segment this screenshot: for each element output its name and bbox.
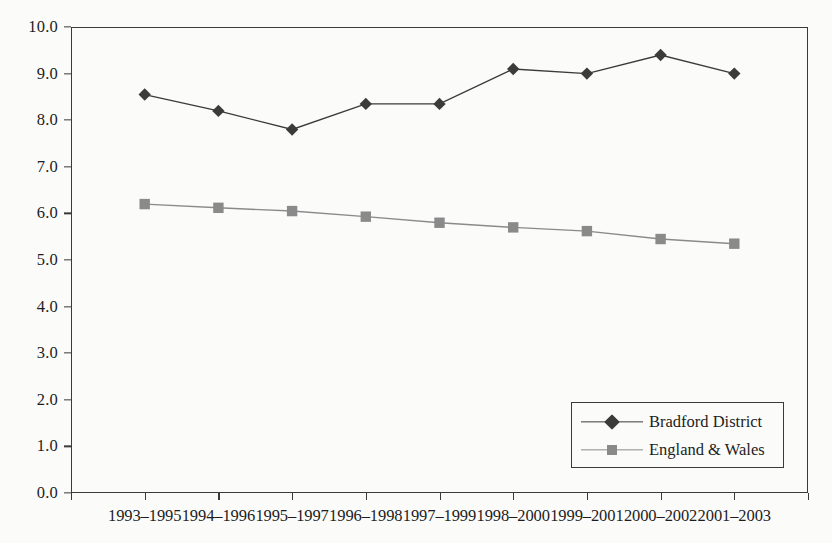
x-axis-tick-mark: [292, 493, 293, 500]
series-line-bradford-district: [145, 55, 735, 130]
data-point-marker: [728, 67, 740, 79]
x-axis-tick-mark: [366, 493, 367, 500]
y-axis-tick-mark: [64, 306, 71, 307]
x-axis-tick-label: 1994–1996: [182, 506, 255, 526]
data-point-marker: [140, 199, 150, 209]
y-axis-tick-label: 1.0: [37, 436, 58, 456]
data-point-marker: [287, 206, 297, 216]
data-point-marker: [213, 203, 223, 213]
y-axis-tick-mark: [64, 259, 71, 260]
y-axis-tick-mark: [64, 446, 71, 447]
data-point-marker: [139, 88, 151, 100]
x-axis-tick-mark: [808, 493, 809, 500]
data-point-marker: [286, 123, 298, 135]
y-axis-tick-mark: [64, 353, 71, 354]
data-point-marker: [654, 49, 666, 61]
data-point-marker: [360, 98, 372, 110]
x-axis-tick-mark: [587, 493, 588, 500]
x-axis-tick-label: 1996–1998: [329, 506, 402, 526]
legend-item-bradford-district: Bradford District: [572, 408, 783, 436]
data-point-marker: [507, 63, 519, 75]
x-axis-tick-mark: [145, 493, 146, 500]
data-point-marker: [729, 238, 739, 248]
y-axis-tick-mark: [64, 213, 71, 214]
x-axis-tick-mark: [71, 493, 72, 500]
legend-label-bradford-district: Bradford District: [643, 412, 762, 432]
y-axis-tick-mark: [64, 166, 71, 167]
x-axis-tick-mark: [440, 493, 441, 500]
x-axis-tick-label: 1995–1997: [255, 506, 328, 526]
legend-item-england-wales: England & Wales: [572, 436, 783, 464]
y-axis-tick-label: 9.0: [37, 64, 58, 84]
x-axis-tick-label: 1999–2001: [550, 506, 623, 526]
y-axis-tick-label: 6.0: [37, 203, 58, 223]
x-axis-tick-mark: [218, 493, 219, 500]
y-axis-tick-label: 0.0: [37, 483, 58, 503]
x-axis-tick-mark: [661, 493, 662, 500]
data-point-marker: [212, 105, 224, 117]
y-axis: 0.01.02.03.04.05.06.07.08.09.010.0: [0, 27, 58, 493]
y-axis-tick-label: 4.0: [37, 297, 58, 317]
x-axis-tick-label: 1998–2000: [477, 506, 550, 526]
y-axis-tick-mark: [64, 120, 71, 121]
y-axis-tick-label: 7.0: [37, 157, 58, 177]
y-axis-tick-mark: [64, 492, 71, 493]
x-axis: 1993–19951994–19961995–19971996–19981997…: [71, 506, 808, 536]
legend-swatch-square-icon: [581, 442, 643, 458]
x-axis-tick-label: 2000–2002: [624, 506, 697, 526]
line-chart: 0.01.02.03.04.05.06.07.08.09.010.0 1993–…: [0, 0, 832, 543]
y-axis-tick-label: 3.0: [37, 343, 58, 363]
x-axis-tick-label: 2001–2003: [698, 506, 771, 526]
data-point-marker: [582, 226, 592, 236]
x-axis-tick-mark: [513, 493, 514, 500]
legend-label-england-wales: England & Wales: [643, 440, 765, 460]
data-point-marker: [655, 234, 665, 244]
y-axis-tick-label: 10.0: [28, 17, 58, 37]
chart-legend: Bradford District England & Wales: [571, 402, 784, 468]
y-axis-tick-label: 8.0: [37, 110, 58, 130]
x-axis-tick-mark: [734, 493, 735, 500]
data-point-marker: [361, 211, 371, 221]
y-axis-tick-mark: [64, 26, 71, 27]
y-axis-tick-label: 5.0: [37, 250, 58, 270]
data-point-marker: [433, 98, 445, 110]
y-axis-tick-mark: [64, 399, 71, 400]
y-axis-tick-label: 2.0: [37, 390, 58, 410]
data-point-marker: [581, 67, 593, 79]
x-axis-tick-label: 1993–1995: [108, 506, 181, 526]
legend-swatch-diamond-icon: [581, 414, 643, 430]
data-point-marker: [434, 218, 444, 228]
x-axis-tick-label: 1997–1999: [403, 506, 476, 526]
y-axis-tick-mark: [64, 73, 71, 74]
data-point-marker: [508, 222, 518, 232]
